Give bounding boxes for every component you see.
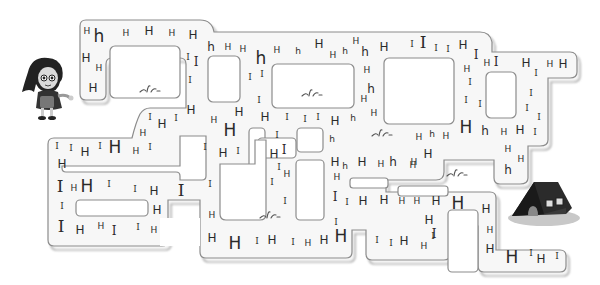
maze-letter: H [431, 195, 440, 207]
maze-letter: H [98, 222, 105, 231]
maze-letter: h [256, 50, 267, 67]
maze-letter: H [152, 204, 161, 216]
maze-letter: H [518, 155, 525, 164]
maze-letter: H [218, 147, 227, 159]
maze-letter: H [353, 37, 360, 46]
maze-letter: I [389, 239, 393, 248]
maze-letter: H [501, 128, 508, 137]
maze-letter: H [157, 118, 166, 130]
maze-letter: H [71, 184, 78, 193]
maze-letter: I [57, 178, 64, 195]
maze-letter: H [330, 115, 339, 127]
maze-letter: I [107, 180, 111, 189]
maze-letter: I [529, 89, 533, 98]
maze-letter: I [186, 53, 190, 62]
maze-letter: H [319, 234, 328, 246]
maze-letter: H [188, 29, 197, 41]
maze-letter: H [334, 173, 341, 182]
maze-letter: I [333, 191, 338, 203]
maze-letter: I [534, 69, 538, 78]
maze-letter: h [429, 130, 435, 139]
maze-letter: H [109, 139, 122, 156]
maze-letter: H [284, 170, 291, 179]
maze-letter: H [144, 25, 153, 37]
maze-letter: I [537, 113, 541, 122]
maze-letter: H [399, 235, 408, 247]
maze-letter: I [98, 142, 102, 151]
maze-letter: H [536, 253, 545, 265]
maze-letter: I [248, 73, 252, 82]
maze-letter: H [84, 27, 91, 36]
maze-letter: I [533, 128, 537, 137]
maze-letter: h [295, 47, 301, 56]
maze-letter: I [260, 70, 264, 79]
maze-letter: H [186, 104, 195, 116]
maze-letter: I [208, 180, 212, 189]
maze-letter: I [133, 185, 137, 194]
maze-letter: h [329, 135, 335, 144]
maze-letter: h [94, 28, 105, 45]
wall-block [296, 160, 324, 220]
maze-letter: H [57, 158, 66, 170]
maze-letter: H [81, 52, 90, 64]
maze-letter: I [432, 228, 437, 240]
maze-letter: I [282, 144, 287, 156]
maze-letter: I [303, 115, 307, 124]
maze-letter: H [421, 242, 428, 251]
maze-letter: I [494, 56, 499, 68]
maze-letter: h [389, 156, 397, 168]
maze-letter: H [260, 111, 269, 123]
maze-letter: I [420, 34, 427, 51]
maze-letter: I [446, 45, 450, 54]
maze-letter: H [547, 60, 554, 69]
maze-letter: I [375, 236, 379, 245]
maze-letter: h [504, 164, 512, 176]
wall-block [297, 128, 323, 152]
maze-letter: I [255, 237, 259, 246]
wall-block [448, 210, 478, 272]
maze-letter: h [350, 114, 356, 123]
maze-letter: I [334, 218, 338, 227]
maze-letter: H [371, 109, 378, 118]
maze-letter: H [234, 106, 243, 118]
maze-letter: H [75, 224, 84, 236]
maze-letter: H [305, 239, 312, 248]
maze-letter: H [361, 95, 368, 104]
wall-block [208, 56, 240, 102]
maze-letter: I [410, 40, 414, 49]
maze-letter: H [330, 51, 337, 60]
house-icon [508, 182, 580, 226]
maze-letter: H [364, 66, 371, 75]
maze-letter: H [140, 129, 147, 138]
maze-letter: H [269, 148, 278, 160]
maze-letter: I [468, 78, 472, 87]
girl-character-start [18, 52, 80, 124]
maze-letter: H [96, 64, 103, 73]
maze-letter: H [274, 46, 281, 55]
maze-letter: I [257, 96, 261, 105]
maze-letter: H [505, 145, 512, 154]
maze-letter: I [194, 56, 199, 68]
maze-letter: I [345, 198, 349, 207]
maze-letter: H [452, 195, 465, 212]
maze-letter: H [169, 29, 176, 38]
maze-letter: I [112, 225, 117, 237]
maze-letter: H [521, 57, 530, 69]
maze-letter: H [416, 133, 423, 142]
maze-letter: I [203, 143, 207, 152]
maze-letter: H [458, 39, 467, 51]
maze-letter: I [291, 238, 295, 247]
maze-letter: H [207, 232, 216, 244]
maze-letter: H [379, 194, 388, 206]
maze-letter: H [267, 234, 276, 246]
maze-letter: I [236, 147, 240, 156]
maze-letter: I [478, 100, 482, 109]
wall-block [486, 72, 516, 118]
maze-letter: h [481, 125, 489, 137]
maze-letter: I [58, 218, 65, 235]
maze-letter: H [358, 195, 367, 207]
maze-letter: H [314, 38, 323, 50]
maze-letter: H [484, 59, 491, 68]
maze-letter: H [399, 197, 406, 206]
maze-letter: h [207, 41, 215, 53]
